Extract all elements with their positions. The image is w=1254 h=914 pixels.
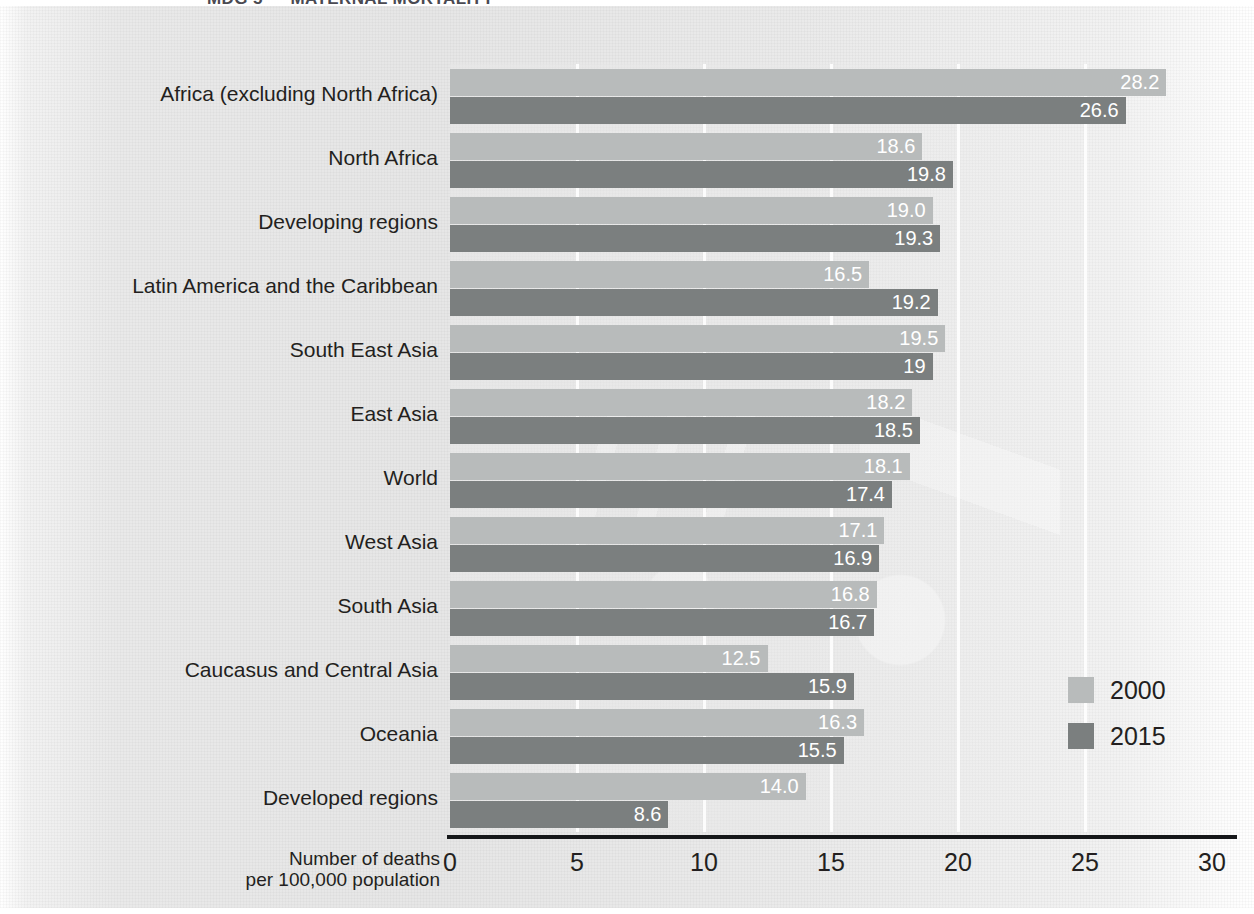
category-label: Africa (excluding North Africa) [8,82,438,106]
bar: 18.2 [450,389,912,416]
bar: 28.2 [450,69,1166,96]
bar: 16.5 [450,261,869,288]
chart-legend: 20002015 [1068,667,1166,759]
bar-value-label: 15.5 [798,740,837,760]
x-axis-title: Number of deaths per 100,000 population [10,848,440,891]
bar-value-label: 16.9 [833,548,872,568]
legend-label: 2015 [1110,722,1166,751]
bar-value-label: 18.2 [866,392,905,412]
category-label: Developed regions [8,786,438,810]
x-tick-label: 10 [690,848,718,877]
x-tick-label: 25 [1071,848,1099,877]
gridline [957,64,960,832]
bar-value-label: 19.0 [887,200,926,220]
bar: 19.8 [450,161,953,188]
category-label: South East Asia [8,338,438,362]
horizontal-bar-chart: Africa (excluding North Africa)North Afr… [0,0,1254,914]
legend-label: 2000 [1110,676,1166,705]
bar-value-label: 16.8 [831,584,870,604]
category-label: Latin America and the Caribbean [8,274,438,298]
x-axis-line [447,835,1237,839]
category-label: Caucasus and Central Asia [8,658,438,682]
x-tick-label: 20 [944,848,972,877]
bar-value-label: 17.1 [838,520,877,540]
bar: 12.5 [450,645,768,672]
bar: 15.5 [450,737,844,764]
bar-value-label: 18.6 [877,136,916,156]
bar: 19.3 [450,225,940,252]
x-tick-label: 5 [570,848,584,877]
chart-page: MDG 5 — MATERNAL MORTALITY Africa (exclu… [0,0,1254,914]
bar-value-label: 15.9 [808,676,847,696]
x-axis-title-line2: per 100,000 population [10,869,440,890]
x-tick-label: 0 [443,848,457,877]
bar-value-label: 19.3 [894,228,933,248]
category-label: Developing regions [8,210,438,234]
category-label: West Asia [8,530,438,554]
bar-value-label: 19.2 [892,292,931,312]
legend-swatch-icon [1068,677,1094,703]
bar-value-label: 17.4 [846,484,885,504]
bar-value-label: 16.5 [823,264,862,284]
bar: 26.6 [450,97,1126,124]
bar-value-label: 18.1 [864,456,903,476]
bar: 18.1 [450,453,910,480]
bar: 19.2 [450,289,938,316]
bar-value-label: 12.5 [722,648,761,668]
bar: 16.9 [450,545,879,572]
category-label: World [8,466,438,490]
bar: 19.5 [450,325,945,352]
bar: 16.7 [450,609,874,636]
bar: 19 [450,353,933,380]
bar-value-label: 19.5 [899,328,938,348]
bar-value-label: 14.0 [760,776,799,796]
bar: 16.3 [450,709,864,736]
bar: 18.5 [450,417,920,444]
bar-value-label: 18.5 [874,420,913,440]
bar: 17.1 [450,517,884,544]
bar-value-label: 16.7 [828,612,867,632]
bar-value-label: 19.8 [907,164,946,184]
category-label: East Asia [8,402,438,426]
bar-value-label: 16.3 [818,712,857,732]
legend-item[interactable]: 2015 [1068,713,1166,759]
bar-value-label: 26.6 [1080,100,1119,120]
x-axis-title-line1: Number of deaths [10,848,440,869]
bar: 14.0 [450,773,806,800]
legend-item[interactable]: 2000 [1068,667,1166,713]
x-tick-label: 15 [817,848,845,877]
bar: 17.4 [450,481,892,508]
category-label: North Africa [8,146,438,170]
bar-value-label: 28.2 [1120,72,1159,92]
bar-value-label: 8.6 [634,804,662,824]
category-label: South Asia [8,594,438,618]
bar-value-label: 19 [903,356,925,376]
bar: 8.6 [450,801,668,828]
bar: 16.8 [450,581,877,608]
x-tick-label: 30 [1198,848,1226,877]
legend-swatch-icon [1068,723,1094,749]
bar: 15.9 [450,673,854,700]
category-label: Oceania [8,722,438,746]
bar: 18.6 [450,133,922,160]
bar: 19.0 [450,197,933,224]
